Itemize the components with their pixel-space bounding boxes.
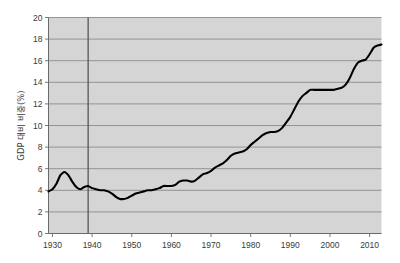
chart-container: 02468101214161820 1930194019501960197019…: [0, 0, 400, 263]
x-tick-label: 1940: [83, 240, 102, 250]
x-tick-label: 1970: [202, 240, 221, 250]
y-tick-label: 6: [38, 164, 43, 174]
y-tick-label: 10: [33, 121, 43, 131]
y-tick-label: 2: [38, 207, 43, 217]
x-tick-label: 2010: [360, 240, 379, 250]
x-tick-label: 1960: [162, 240, 181, 250]
y-axis-title: GDP 대비 비중(%): [16, 90, 26, 160]
x-tick-label: 1950: [122, 240, 141, 250]
y-tick-label: 0: [38, 229, 43, 239]
y-tick-label: 4: [38, 185, 43, 195]
y-tick-label: 16: [33, 56, 43, 66]
y-axis-title-text: GDP 대비 비중(%): [16, 90, 26, 160]
line-chart: 02468101214161820 1930194019501960197019…: [0, 0, 400, 263]
x-tick-label: 1990: [281, 240, 300, 250]
x-tick-label: 1980: [241, 240, 260, 250]
y-tick-label: 18: [33, 34, 43, 44]
y-tick-label: 14: [33, 77, 43, 87]
x-tick-label: 2000: [321, 240, 340, 250]
y-tick-label: 8: [38, 142, 43, 152]
x-tick-label: 1930: [43, 240, 62, 250]
y-tick-label: 20: [33, 13, 43, 23]
y-tick-label: 12: [33, 99, 43, 109]
